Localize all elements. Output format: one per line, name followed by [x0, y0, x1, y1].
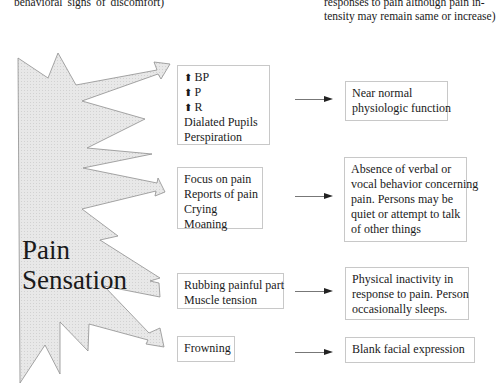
pain-sensation-label: Pain Sensation — [22, 235, 127, 295]
response-line: Absence of verbal or — [351, 162, 460, 177]
stimulus-line: Perspiration — [184, 130, 263, 145]
stimulus-line: Dialated Pupils — [184, 115, 263, 130]
stimulus-line: Moaning — [184, 217, 256, 232]
response-box-facial: Blank facial expression — [345, 337, 475, 363]
response-line: quiet or attempt to talk — [351, 207, 460, 222]
response-line: pain. Persons may be — [351, 192, 460, 207]
stimulus-line: Frowning — [184, 341, 228, 356]
arrow-right-icon — [295, 192, 333, 202]
response-line: physiologic function — [352, 101, 441, 116]
response-line: of other things — [351, 222, 460, 237]
stimulus-box-motor: Rubbing painful part Muscle tension — [177, 273, 284, 309]
stimulus-line: Crying — [184, 202, 256, 217]
arrow-right-icon — [295, 95, 333, 105]
response-line: response to pain. Person — [352, 287, 462, 302]
up-arrow-icon: ⬆ — [184, 102, 192, 113]
stimulus-line: Focus on pain — [184, 172, 256, 187]
response-box-motor: Physical inactivity in response to pain.… — [345, 267, 469, 320]
up-arrow-icon: ⬆ — [184, 87, 192, 98]
response-line: Blank facial expression — [352, 342, 468, 357]
stimulus-box-facial: Frowning — [177, 336, 235, 362]
response-line: occasionally sleeps. — [352, 302, 462, 317]
pain-label-line-2: Sensation — [22, 265, 127, 295]
pain-label-line-1: Pain — [22, 235, 127, 265]
starburst-shape — [18, 53, 170, 383]
up-arrow-icon: ⬆ — [184, 72, 192, 83]
response-box-physiologic: Near normal physiologic function — [345, 81, 448, 121]
stimulus-line: ⬆BP — [184, 70, 263, 85]
stimulus-line: ⬆P — [184, 85, 263, 100]
arrow-right-icon — [295, 348, 333, 358]
stimulus-line: Rubbing painful part — [184, 278, 277, 293]
arrow-right-icon — [295, 287, 333, 297]
response-line: Physical inactivity in — [352, 272, 462, 287]
response-line: Near normal — [352, 86, 441, 101]
stimulus-box-physiologic: ⬆BP ⬆P ⬆R Dialated Pupils Perspiration — [177, 65, 270, 145]
response-line: vocal behavior concerning — [351, 177, 460, 192]
stimulus-line: Muscle tension — [184, 293, 277, 308]
stimulus-line: ⬆R — [184, 100, 263, 115]
response-box-vocal: Absence of verbal or vocal behavior conc… — [344, 157, 467, 242]
stimulus-line: Reports of pain — [184, 187, 256, 202]
stimulus-box-vocal: Focus on pain Reports of pain Crying Moa… — [177, 167, 263, 229]
